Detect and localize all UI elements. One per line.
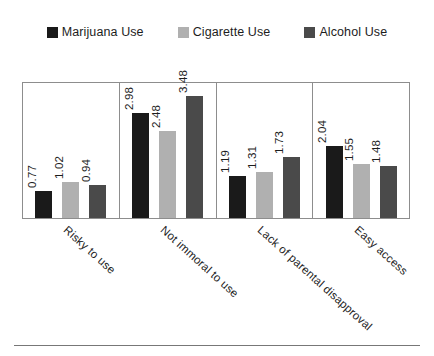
bar-value-label: 3.48	[177, 70, 189, 93]
category-axis: Risky to use Not immoral to use Lack of …	[22, 219, 410, 319]
bar-value-label: 2.04	[316, 120, 328, 143]
square-swatch-icon	[47, 27, 58, 38]
bar-cigarette-use[interactable]	[159, 131, 176, 218]
bar-value-label: 1.73	[273, 131, 285, 154]
bar-slot[interactable]: 2.04	[326, 83, 343, 218]
legend-item-label: Cigarette Use	[193, 25, 271, 39]
bar-slot[interactable]: 3.48	[186, 83, 203, 218]
bar-value-label: 1.55	[343, 137, 355, 160]
bar-slot[interactable]: 1.19	[229, 83, 246, 218]
bar-slot[interactable]: 1.73	[283, 83, 300, 218]
bar-value-label: 1.02	[53, 156, 65, 179]
bar-alcohol-use[interactable]	[380, 166, 397, 218]
bar-value-label: 2.98	[123, 87, 135, 110]
bar-marijuana-use[interactable]	[229, 176, 246, 218]
bar-cigarette-use[interactable]	[62, 182, 79, 218]
category-tick-easy-access: Easy access	[313, 219, 410, 319]
footer-divider	[14, 345, 420, 346]
bar-marijuana-use[interactable]	[35, 191, 52, 218]
bar-slot[interactable]: 1.48	[380, 83, 397, 218]
chart-legend: Marijuana Use Cigarette Use Alcohol Use	[0, 22, 434, 42]
category-tick-not-immoral-to-use: Not immoral to use	[119, 219, 216, 319]
bar-alcohol-use[interactable]	[89, 185, 106, 218]
bar-slot[interactable]: 2.48	[159, 83, 176, 218]
bar-value-label: 1.19	[219, 150, 231, 173]
bar-cigarette-use[interactable]	[256, 172, 273, 218]
category-label: Easy access	[352, 224, 410, 278]
bar-slot[interactable]: 2.98	[132, 83, 149, 218]
chart-container: Marijuana Use Cigarette Use Alcohol Use …	[0, 0, 434, 356]
bar-value-label: 1.31	[246, 146, 258, 169]
bar-alcohol-use[interactable]	[283, 157, 300, 218]
legend-item-label: Alcohol Use	[319, 25, 387, 39]
bar-group-easy-access: 2.04 1.55 1.48	[313, 83, 409, 218]
bar-marijuana-use[interactable]	[132, 113, 149, 218]
plot-area: 0.77 1.02 0.94 2.98 2.48 3.48	[22, 82, 410, 219]
bar-value-label: 2.48	[150, 105, 162, 128]
legend-item-cigarette-use[interactable]: Cigarette Use	[178, 25, 271, 39]
category-tick-risky-to-use: Risky to use	[22, 219, 119, 319]
bar-value-label: 1.48	[370, 140, 382, 163]
legend-item-label: Marijuana Use	[62, 25, 144, 39]
bar-value-label: 0.77	[26, 165, 38, 188]
category-label: Risky to use	[61, 224, 117, 276]
bar-group-risky-to-use: 0.77 1.02 0.94	[23, 83, 120, 218]
bar-value-label: 0.94	[80, 159, 92, 182]
square-swatch-icon	[178, 27, 189, 38]
bar-slot[interactable]: 0.77	[35, 83, 52, 218]
bar-group-lack-of-parental-disapproval: 1.19 1.31 1.73	[217, 83, 314, 218]
bar-marijuana-use[interactable]	[326, 146, 343, 218]
bar-alcohol-use[interactable]	[186, 96, 203, 218]
legend-item-alcohol-use[interactable]: Alcohol Use	[304, 25, 387, 39]
bar-slot[interactable]: 0.94	[89, 83, 106, 218]
category-tick-lack-of-parental-disapproval: Lack of parental disapproval	[216, 219, 313, 319]
bar-slot[interactable]: 1.55	[353, 83, 370, 218]
bar-group-not-immoral-to-use: 2.98 2.48 3.48	[120, 83, 217, 218]
bar-slot[interactable]: 1.02	[62, 83, 79, 218]
square-swatch-icon	[304, 27, 315, 38]
bar-slot[interactable]: 1.31	[256, 83, 273, 218]
bar-cigarette-use[interactable]	[353, 164, 370, 218]
legend-item-marijuana-use[interactable]: Marijuana Use	[47, 25, 144, 39]
